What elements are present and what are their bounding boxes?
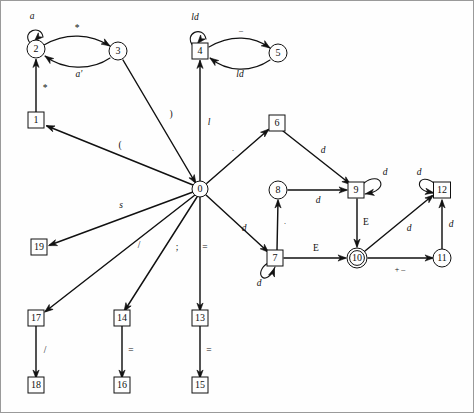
edge-label-e-9-10: E (363, 217, 369, 227)
arrowhead-9-to-9 (365, 189, 374, 197)
node-label-11: 11 (437, 252, 447, 263)
node-label-12: 12 (437, 184, 447, 195)
edge-label-e-6-9: d (321, 145, 326, 155)
edge-12-to-12 (419, 179, 434, 193)
node-13[interactable]: 13 (192, 310, 208, 326)
node-17[interactable]: 17 (28, 310, 44, 326)
node-label-14: 14 (117, 312, 127, 323)
edge-label-e-0-1: ( (118, 140, 121, 151)
edge-5-to-4 (210, 58, 270, 69)
node-14[interactable]: 14 (114, 310, 130, 326)
node-label-8: 8 (276, 184, 281, 195)
edge-4-to-5 (209, 38, 270, 48)
node-2[interactable]: 2 (27, 40, 45, 58)
edge-label-e-0-19: s (119, 200, 123, 210)
node-18[interactable]: 18 (28, 377, 44, 393)
edge-label-e-0-6: . (232, 144, 234, 153)
edge-label-e-14-16: = (128, 345, 133, 355)
node-9[interactable]: 9 (348, 182, 364, 198)
node-7[interactable]: 7 (267, 250, 283, 266)
edge-label-e-3-2: a' (76, 69, 84, 79)
edge-7-to-8 (277, 201, 278, 250)
node-16[interactable]: 16 (114, 377, 130, 393)
edge-label-e-17-18: / (44, 345, 47, 355)
edge-label-e-0-13: ; (176, 242, 179, 252)
edge-0-to-17 (46, 195, 195, 311)
edge-label-e-10-11: + – (395, 265, 407, 274)
edge-label-e-0-14: / (138, 240, 141, 250)
edges-layer (28, 30, 445, 378)
nodes-layer: 012345678910111213141516171819 (27, 40, 451, 393)
node-label-9: 9 (354, 184, 359, 195)
node-label-4: 4 (198, 45, 203, 56)
edge-10-to-12 (365, 196, 432, 251)
edge-2-to-3 (44, 36, 110, 46)
edge-label-e-1-2: * (43, 83, 48, 93)
edge-0-to-6 (206, 130, 268, 184)
edge-label-e-8-9: d (316, 195, 321, 205)
node-label-5: 5 (276, 47, 281, 58)
node-label-15: 15 (195, 379, 205, 390)
arrowhead-0-to-19 (47, 240, 57, 249)
node-12[interactable]: 12 (434, 182, 451, 198)
node-11[interactable]: 11 (433, 249, 451, 267)
node-label-17: 17 (31, 312, 41, 323)
node-label-0: 0 (198, 183, 203, 194)
edge-label-e-13-15: = (206, 345, 211, 355)
edge-0-to-7 (206, 195, 267, 251)
arrowhead-3-to-2 (43, 53, 54, 63)
node-label-7: 7 (273, 252, 278, 263)
node-0[interactable]: 0 (192, 181, 208, 197)
edge-label-e-11-12: d (449, 219, 454, 229)
node-label-10: 10 (352, 252, 362, 263)
edge-label-e-0-4: l (208, 117, 211, 127)
node-15[interactable]: 15 (192, 377, 208, 393)
node-label-2: 2 (34, 43, 39, 54)
node-label-6: 6 (275, 117, 280, 128)
node-label-13: 13 (195, 312, 205, 323)
edge-label-e-0-7: d (242, 223, 247, 233)
node-label-19: 19 (34, 241, 44, 252)
edge-label-e-5-4: ld (236, 69, 244, 79)
node-8[interactable]: 8 (269, 181, 287, 199)
edge-label-e-7-8: . (284, 217, 286, 226)
edge-label-e-2-3: * (75, 23, 80, 33)
arrowhead-0-to-1 (45, 123, 55, 132)
node-4[interactable]: 4 (192, 43, 208, 59)
node-1[interactable]: 1 (28, 112, 44, 128)
node-label-18: 18 (31, 379, 41, 390)
edge-label-e-7-7: d (257, 278, 262, 288)
edge-label-e-12-12: d (417, 167, 422, 177)
node-label-1: 1 (34, 114, 39, 125)
arrowhead-5-to-4 (208, 55, 219, 65)
node-label-16: 16 (117, 379, 127, 390)
edge-label-e-9-9: d (383, 167, 388, 177)
node-10[interactable]: 10 (347, 248, 367, 268)
diagram-frame: 012345678910111213141516171819 a*a'*()ld… (0, 0, 474, 413)
edge-label-e-4-4: ld (191, 12, 199, 22)
node-19[interactable]: 19 (31, 239, 47, 255)
edge-3-to-2 (45, 56, 110, 67)
edge-label-e-10-12: d (407, 223, 412, 233)
edge-0-to-1 (47, 126, 193, 185)
edge-labels-layer: a*a'*()ld–ldl.ddd.ddEE+ –ddds/;=/== (30, 11, 454, 355)
edge-label-e-0-3: ) (169, 109, 172, 120)
edge-label-e-7-10: E (313, 243, 319, 253)
node-6[interactable]: 6 (269, 115, 285, 131)
edge-label-e-4-5: – (238, 26, 244, 35)
edge-9-to-9 (364, 179, 381, 194)
edge-label-e-2-2: a (30, 11, 35, 21)
edge-label-e-0-13b: = (202, 242, 207, 252)
state-transition-diagram: 012345678910111213141516171819 a*a'*()ld… (1, 1, 474, 413)
node-5[interactable]: 5 (269, 44, 287, 62)
node-3[interactable]: 3 (109, 42, 127, 60)
node-label-3: 3 (116, 45, 121, 56)
edge-0-to-3 (123, 60, 195, 182)
edge-6-to-9 (283, 131, 349, 183)
